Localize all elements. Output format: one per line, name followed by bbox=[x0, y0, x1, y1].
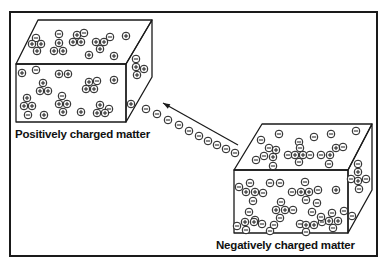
negative-charge-icon bbox=[235, 183, 243, 191]
negative-charge-icon bbox=[195, 132, 203, 140]
negative-charge-icon bbox=[242, 226, 250, 234]
positive-charge-icon bbox=[77, 108, 85, 116]
positive-charge-icon bbox=[281, 206, 289, 214]
negative-charge-icon bbox=[310, 133, 318, 141]
negative-charge-icon bbox=[362, 175, 370, 183]
positive-charge-icon bbox=[59, 108, 67, 116]
negative-charge-icon bbox=[24, 111, 32, 119]
positive-charge-icon bbox=[18, 69, 26, 77]
negative-charge-icon bbox=[354, 160, 362, 168]
positive-charge-icon bbox=[85, 78, 93, 86]
positive-charge-icon bbox=[82, 85, 90, 93]
negative-charge-icon bbox=[275, 130, 283, 138]
positive-charge-icon bbox=[332, 144, 340, 152]
positive-charge-icon bbox=[140, 65, 148, 73]
positive-charge-icon bbox=[55, 70, 63, 78]
positive-charge-icon bbox=[334, 217, 342, 225]
positive-charge-icon bbox=[127, 100, 135, 108]
negative-charge-icon bbox=[317, 213, 325, 221]
negative-charge-icon bbox=[284, 151, 292, 159]
positive-charge-icon bbox=[39, 79, 47, 87]
positive-charge-icon bbox=[73, 31, 81, 39]
negative-charge-icon bbox=[175, 121, 183, 129]
positive-charge-icon bbox=[23, 94, 31, 102]
positive-charge-icon bbox=[272, 146, 280, 154]
positive-charge-icon bbox=[93, 109, 101, 117]
negative-charge-icon bbox=[259, 189, 267, 197]
positive-charge-icon bbox=[37, 40, 45, 48]
negative-charge-icon bbox=[222, 145, 230, 153]
positive-charge-icon bbox=[90, 85, 98, 93]
negative-charge-icon bbox=[246, 179, 254, 187]
positive-charge-icon bbox=[242, 188, 250, 196]
positive-charge-icon bbox=[77, 38, 85, 46]
negative-charge-icon bbox=[313, 199, 321, 207]
negative-box bbox=[233, 124, 372, 236]
positive-charge-icon bbox=[297, 188, 305, 196]
positive-charge-icon bbox=[332, 186, 340, 194]
diagram-canvas: Positively charged matter Negatively cha… bbox=[0, 0, 386, 262]
negative-charge-icon bbox=[328, 209, 336, 217]
positive-charge-icon bbox=[96, 45, 104, 53]
positive-charge-icon bbox=[241, 218, 249, 226]
positive-charge-icon bbox=[325, 217, 333, 225]
negative-charge-icon bbox=[302, 228, 310, 236]
negative-charge-icon bbox=[329, 224, 337, 232]
negative-charge-icon bbox=[132, 55, 140, 63]
negative-charge-icon bbox=[314, 186, 322, 194]
positive-charge-icon bbox=[28, 40, 36, 48]
positive-charge-icon bbox=[122, 32, 130, 40]
positive-charge-icon bbox=[302, 221, 310, 229]
positive-charge-icon bbox=[55, 39, 63, 47]
positive-charge-icon bbox=[55, 100, 63, 108]
negative-charge-icon bbox=[93, 77, 101, 85]
positive-charge-icon bbox=[272, 206, 280, 214]
negative-charge-icon bbox=[270, 221, 278, 229]
positive-charge-icon bbox=[63, 100, 71, 108]
negative-charge-icon bbox=[352, 127, 360, 135]
positive-charge-icon bbox=[96, 101, 104, 109]
negative-charge-icon bbox=[295, 158, 303, 166]
positive-charge-icon bbox=[44, 87, 52, 95]
positive-charge-icon bbox=[110, 52, 118, 60]
negative-charge-icon bbox=[252, 156, 260, 164]
positive-charge-icon bbox=[250, 218, 258, 226]
positive-charge-icon bbox=[110, 76, 118, 84]
negative-charge-icon bbox=[258, 220, 266, 228]
negative-charge-icon bbox=[32, 66, 40, 74]
positive-charge-icon bbox=[50, 47, 58, 55]
positive-charge-icon bbox=[354, 168, 362, 176]
positive-charge-icon bbox=[291, 151, 299, 159]
negative-charge-icon bbox=[306, 151, 314, 159]
negative-charge-icon bbox=[339, 143, 347, 151]
negative-charge-icon bbox=[269, 162, 277, 170]
positive-charge-icon bbox=[133, 71, 141, 79]
negative-charge-icon bbox=[317, 151, 325, 159]
negative-charge-icon bbox=[266, 179, 274, 187]
negative-charge-icon bbox=[245, 208, 253, 216]
negative-charge-icon bbox=[289, 206, 297, 214]
positive-charge-icon bbox=[40, 111, 48, 119]
negative-charge-icon bbox=[164, 116, 172, 124]
negative-matter-label: Negatively charged matter bbox=[216, 239, 356, 251]
negative-charge-icon bbox=[301, 178, 309, 186]
positive-charge-icon bbox=[132, 63, 140, 71]
negative-charge-icon bbox=[288, 188, 296, 196]
positive-charge-icon bbox=[85, 51, 93, 59]
negative-charge-icon bbox=[80, 29, 88, 37]
positive-charge-icon bbox=[20, 102, 28, 110]
negative-charge-icon bbox=[296, 144, 304, 152]
negative-charge-icon bbox=[153, 110, 161, 118]
negative-charge-icon bbox=[260, 152, 268, 160]
negative-charge-icon bbox=[249, 197, 257, 205]
negative-charge-icon bbox=[142, 105, 150, 113]
positive-charge-icon bbox=[64, 70, 72, 78]
positive-charge-icon bbox=[101, 109, 109, 117]
positive-charge-icon bbox=[59, 47, 67, 55]
positive-charge-icon bbox=[269, 153, 277, 161]
negative-charge-icon bbox=[185, 127, 193, 135]
negative-charge-icon bbox=[327, 130, 335, 138]
negative-charge-icon bbox=[325, 160, 333, 168]
electron-stream bbox=[142, 105, 239, 157]
negative-charge-icon bbox=[265, 144, 273, 152]
